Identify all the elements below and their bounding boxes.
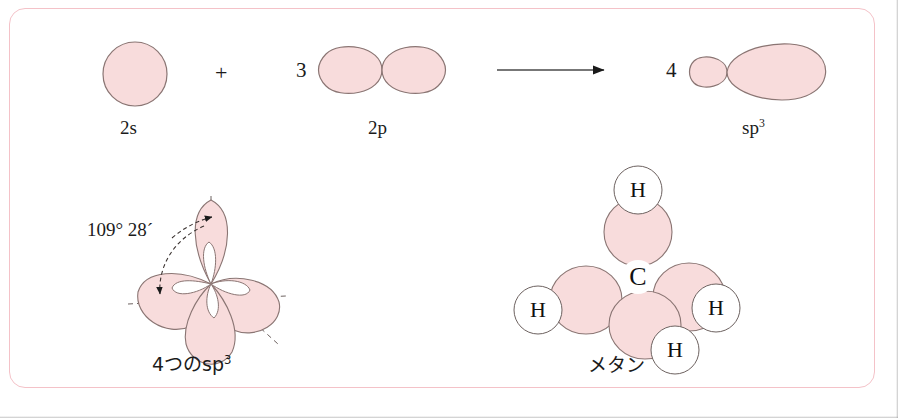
label-2s: 2s [120, 118, 137, 137]
sp3-cluster-caption-base: 4つのsp [152, 353, 224, 375]
bond-angle-label: 109° 28´ [87, 220, 153, 239]
figure-root: 2s + 3 2p 4 sp3 109° 28´ 4つのsp3 メタン C H … [0, 0, 898, 418]
atom-label-carbon: C [624, 264, 652, 290]
atom-label-hydrogen-front: H [662, 339, 688, 361]
sp3-cluster-caption: 4つのsp3 [152, 355, 232, 374]
atom-label-hydrogen-left: H [525, 299, 551, 321]
coefficient-sp3: 4 [666, 60, 677, 81]
figure-border-frame [9, 8, 875, 388]
label-sp3-base: sp [742, 117, 759, 138]
label-sp3: sp3 [742, 118, 765, 137]
coefficient-2p: 3 [296, 60, 307, 81]
label-sp3-sup: 3 [759, 117, 765, 130]
sp3-cluster-caption-sup: 3 [224, 353, 232, 367]
label-2p: 2p [368, 118, 387, 137]
methane-caption: メタン [588, 356, 645, 375]
atom-label-hydrogen-top: H [625, 179, 651, 201]
atom-label-hydrogen-right: H [703, 297, 729, 319]
plus-sign: + [215, 62, 227, 84]
